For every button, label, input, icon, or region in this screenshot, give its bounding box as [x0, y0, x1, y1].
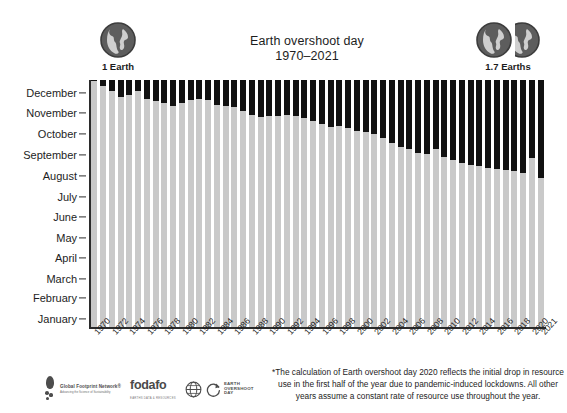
bar-biocapacity-segment — [450, 160, 456, 327]
bar-overshoot-segment — [249, 80, 255, 115]
bar-biocapacity-segment — [468, 165, 474, 327]
bar-1973 — [118, 80, 124, 327]
bar-biocapacity-segment — [153, 101, 159, 327]
bar-1979 — [170, 80, 176, 327]
bar-overshoot-segment — [336, 80, 342, 126]
bar-biocapacity-segment — [441, 157, 447, 327]
bar-biocapacity-segment — [485, 168, 491, 327]
bar-overshoot-segment — [266, 80, 272, 116]
gfn-tagline: Advancing the Science of Sustainability — [60, 390, 121, 394]
bar-biocapacity-segment — [476, 166, 482, 327]
bar-2009 — [433, 80, 439, 327]
bar-biocapacity-segment — [240, 111, 246, 327]
chart-root: Earth overshoot day 1970–2021 1 Earth — [0, 0, 567, 413]
y-axis-tick-june — [79, 216, 86, 217]
bar-biocapacity-segment — [214, 105, 220, 327]
y-axis-labels: JanuaryFebruaryMarchAprilMayJuneJulyAugu… — [0, 72, 86, 332]
bar-biocapacity-segment — [538, 178, 544, 327]
bar-overshoot-segment — [91, 80, 97, 81]
bar-overshoot-segment — [538, 80, 544, 178]
bar-2006 — [406, 80, 412, 327]
bar-biocapacity-segment — [126, 95, 132, 327]
bar-biocapacity-segment — [406, 149, 412, 327]
bar-1985 — [223, 80, 229, 327]
y-axis-tick-may — [79, 237, 86, 238]
fodafo-tagline: EARTHS DATA & RESOURCES — [130, 396, 176, 400]
bar-biocapacity-segment — [109, 91, 115, 327]
y-axis-label-june: June — [53, 211, 77, 223]
bar-overshoot-segment — [135, 80, 141, 91]
bar-overshoot-segment — [389, 80, 395, 143]
bar-biocapacity-segment — [363, 132, 369, 327]
bar-biocapacity-segment — [231, 107, 237, 327]
bar-overshoot-segment — [345, 80, 351, 128]
bar-1989 — [258, 80, 264, 327]
y-axis-label-january: January — [38, 313, 77, 325]
bar-1995 — [310, 80, 316, 327]
bar-overshoot-segment — [240, 80, 246, 111]
fodafo-name: fodafo — [130, 379, 166, 392]
bar-biocapacity-segment — [258, 117, 264, 327]
bar-biocapacity-segment — [144, 99, 150, 327]
bar-biocapacity-segment — [354, 131, 360, 327]
bar-2001 — [363, 80, 369, 327]
y-axis-tick-september — [79, 154, 86, 155]
bar-2014 — [476, 80, 482, 327]
bar-overshoot-segment — [301, 80, 307, 118]
bar-biocapacity-segment — [179, 103, 185, 327]
footnote: *The calculation of Earth overshoot day … — [272, 366, 564, 402]
bar-overshoot-segment — [441, 80, 447, 157]
bar-biocapacity-segment — [135, 91, 141, 327]
bar-biocapacity-segment — [380, 138, 386, 327]
bar-biocapacity-segment — [424, 154, 430, 327]
bar-overshoot-segment — [485, 80, 491, 168]
bar-2018 — [511, 80, 517, 327]
bar-overshoot-segment — [511, 80, 517, 171]
bar-overshoot-segment — [223, 80, 229, 106]
bar-overshoot-segment — [459, 80, 465, 163]
bar-1978 — [161, 80, 167, 327]
bar-1982 — [196, 80, 202, 327]
bar-1988 — [249, 80, 255, 327]
y-axis-label-may: May — [56, 232, 77, 244]
bar-overshoot-segment — [503, 80, 509, 170]
chart-subtitle: 1970–2021 — [232, 49, 382, 64]
y-axis-label-march: March — [46, 273, 77, 285]
bar-overshoot-segment — [284, 80, 290, 115]
bar-overshoot-segment — [433, 80, 439, 149]
bar-biocapacity-segment — [398, 147, 404, 327]
bar-1997 — [328, 80, 334, 327]
bar-biocapacity-segment — [529, 158, 535, 327]
bar-1992 — [284, 80, 290, 327]
logo-strip: Global Footprint Network® Advancing the … — [44, 372, 268, 406]
y-axis-tick-march — [79, 278, 86, 279]
plot-area — [90, 80, 545, 327]
bar-biocapacity-segment — [293, 116, 299, 327]
logo-earth-overshoot-day: EARTH OVERSHOOT DAY — [185, 381, 254, 398]
bar-biocapacity-segment — [319, 124, 325, 327]
bar-biocapacity-segment — [415, 153, 421, 327]
bar-overshoot-segment — [144, 80, 150, 99]
bar-2013 — [468, 80, 474, 327]
bar-biocapacity-segment — [371, 134, 377, 327]
bar-overshoot-segment — [214, 80, 220, 105]
bar-1971 — [100, 80, 106, 327]
bar-1972 — [109, 80, 115, 327]
bar-biocapacity-segment — [511, 171, 517, 327]
y-axis-tick-january — [79, 318, 86, 319]
bar-1986 — [231, 80, 237, 327]
bar-1980 — [179, 80, 185, 327]
bar-2012 — [459, 80, 465, 327]
bar-biocapacity-segment — [494, 169, 500, 327]
bar-biocapacity-segment — [196, 99, 202, 327]
bar-biocapacity-segment — [301, 118, 307, 327]
bar-biocapacity-segment — [249, 115, 255, 327]
y-axis-label-april: April — [55, 252, 77, 264]
bar-1999 — [345, 80, 351, 327]
bar-overshoot-segment — [310, 80, 316, 121]
bar-2004 — [389, 80, 395, 327]
bar-1976 — [144, 80, 150, 327]
bar-overshoot-segment — [520, 80, 526, 173]
bar-1996 — [319, 80, 325, 327]
bar-biocapacity-segment — [188, 100, 194, 327]
